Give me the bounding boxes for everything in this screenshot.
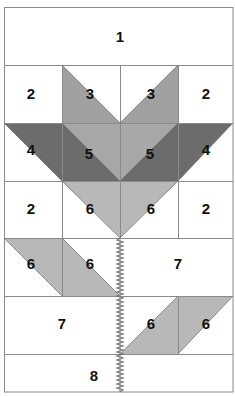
label-piece-2: 2 <box>202 200 210 217</box>
label-piece-2: 2 <box>27 200 35 217</box>
label-piece-8: 8 <box>90 367 98 384</box>
label-piece-1: 1 <box>116 28 124 45</box>
label-piece-4: 4 <box>202 141 211 158</box>
label-piece-7: 7 <box>174 255 182 272</box>
label-piece-5: 5 <box>146 145 154 162</box>
label-piece-6: 6 <box>147 200 155 217</box>
label-piece-7: 7 <box>58 315 66 332</box>
label-piece-6: 6 <box>27 255 35 272</box>
label-piece-2: 2 <box>202 85 210 102</box>
label-piece-6: 6 <box>147 315 155 332</box>
label-piece-6: 6 <box>86 200 94 217</box>
label-piece-3: 3 <box>147 85 155 102</box>
label-piece-6: 6 <box>86 255 94 272</box>
quilt-block-diagram: 1 2 3 3 2 4 5 5 4 2 6 6 2 6 6 7 7 6 6 8 <box>0 0 235 396</box>
label-piece-4: 4 <box>27 141 36 158</box>
label-piece-3: 3 <box>86 85 94 102</box>
label-piece-5: 5 <box>85 145 93 162</box>
label-piece-2: 2 <box>27 85 35 102</box>
label-piece-6: 6 <box>202 315 210 332</box>
